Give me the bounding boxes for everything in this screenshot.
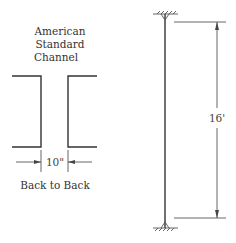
spacing-caption: Back to Back — [20, 179, 90, 191]
section-label-line-2: Standard — [35, 38, 84, 50]
section-label-line-1: American — [33, 25, 85, 37]
column-diagram: American Standard Channel 10" Back to Ba… — [0, 0, 236, 243]
section-label-line-3: Channel — [34, 51, 79, 63]
right-channel-shape — [68, 76, 97, 147]
length-label: 16' — [209, 112, 225, 124]
spacing-value: 10" — [46, 156, 64, 168]
left-channel-shape — [12, 76, 41, 147]
